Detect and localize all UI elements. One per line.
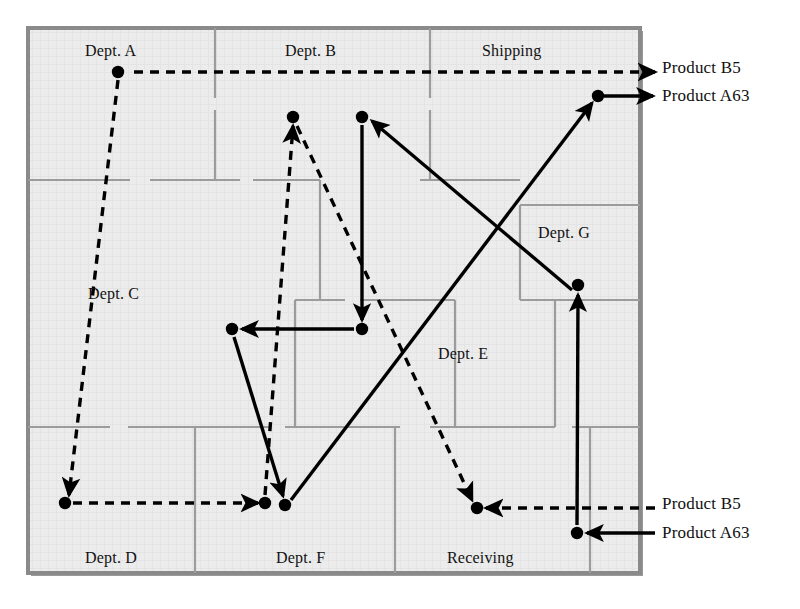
legend-label-product-a63-bottom: Product A63 — [662, 523, 750, 543]
flow-node-dept-f-a63 — [279, 499, 291, 511]
dept-label-dept-b: Dept. B — [285, 42, 336, 60]
dept-label-receiving: Receiving — [447, 549, 514, 567]
dept-label-dept-c: Dept. C — [88, 285, 139, 303]
dept-label-dept-e: Dept. E — [438, 345, 488, 363]
a63-recv-to-g — [577, 295, 578, 525]
legend-label-product-b5-bottom: Product B5 — [662, 494, 741, 514]
dept-label-dept-g: Dept. G — [538, 224, 590, 242]
flow-node-receiving-b5 — [471, 502, 483, 514]
legend-label-product-a63-top: Product A63 — [662, 86, 750, 106]
flow-node-dept-f-b5 — [259, 497, 271, 509]
dept-label-shipping: Shipping — [482, 42, 541, 60]
flow-node-dept-e — [356, 323, 368, 335]
flow-node-dept-b-a63 — [356, 111, 368, 123]
flow-node-dept-b-b5 — [287, 111, 299, 123]
dept-label-dept-a: Dept. A — [85, 42, 136, 60]
legend-label-product-b5-top: Product B5 — [662, 58, 741, 78]
dept-label-dept-f: Dept. F — [276, 549, 325, 567]
flow-node-receiving-a63 — [571, 527, 583, 539]
flow-node-shipping — [592, 90, 604, 102]
facility-layout-diagram: Dept. A Dept. B Shipping Dept. G Dept. C… — [0, 0, 800, 609]
flow-node-dept-g — [572, 279, 584, 291]
flow-node-dept-d — [59, 497, 71, 509]
flow-node-dept-c — [226, 323, 238, 335]
flow-node-dept-a — [112, 66, 124, 78]
dept-label-dept-d: Dept. D — [85, 549, 137, 567]
